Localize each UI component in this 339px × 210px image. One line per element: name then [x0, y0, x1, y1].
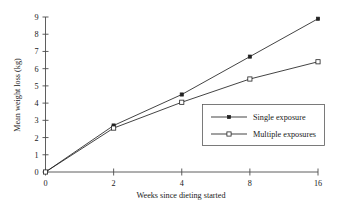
y-tick-label: 8: [34, 30, 38, 39]
data-point-marker: [180, 93, 183, 96]
y-tick-label: 6: [34, 65, 38, 74]
y-axis-title: Mean weight loss (kg): [13, 58, 22, 132]
data-point-marker: [316, 60, 320, 64]
data-point-marker: [180, 100, 184, 104]
data-point-marker: [248, 77, 252, 81]
data-series-layer: [43, 17, 320, 174]
legend-marker: [227, 132, 231, 136]
x-tick-label: 4: [180, 179, 184, 188]
legend-label: Single exposure: [253, 113, 306, 122]
chart-canvas: 0123456789 024816 Single exposureMultipl…: [0, 0, 339, 210]
y-tick-label: 0: [34, 168, 38, 177]
legend-label: Multiple exposures: [253, 130, 316, 139]
y-axis-group: 0123456789: [34, 13, 48, 177]
y-tick-label: 3: [34, 116, 38, 125]
data-point-marker: [43, 170, 47, 174]
legend: Single exposureMultiple exposures: [203, 105, 325, 146]
y-tick-label: 9: [34, 13, 38, 22]
y-tick-label: 1: [34, 151, 38, 160]
series-1: [44, 17, 320, 173]
x-tick-label: 2: [112, 179, 116, 188]
x-tick-label: 0: [43, 179, 47, 188]
x-tick-label: 16: [314, 179, 322, 188]
data-point-marker: [248, 55, 251, 58]
legend-marker: [227, 115, 230, 118]
y-tick-labels: 0123456789: [34, 13, 38, 177]
data-point-marker: [112, 126, 116, 130]
x-tick-labels: 024816: [43, 179, 322, 188]
x-axis-title: Weeks since dieting started: [136, 191, 225, 200]
y-tick-label: 5: [34, 82, 38, 91]
y-tick-label: 2: [34, 134, 38, 143]
legend-background: [203, 105, 325, 146]
data-point-marker: [316, 17, 319, 20]
x-axis-group: 024816: [43, 169, 322, 189]
y-tick-label: 4: [34, 99, 38, 108]
x-tick-label: 8: [248, 179, 252, 188]
y-tick-label: 7: [34, 47, 38, 56]
weight-loss-line-chart: 0123456789 024816 Single exposureMultipl…: [0, 0, 339, 210]
